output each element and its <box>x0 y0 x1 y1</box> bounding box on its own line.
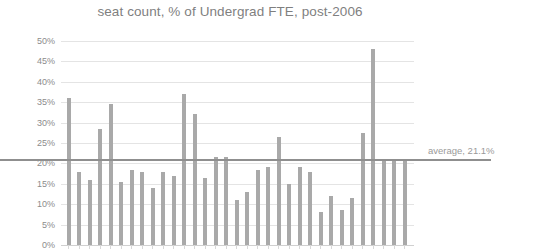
bar <box>109 104 113 245</box>
bar <box>350 198 354 245</box>
bar <box>161 172 165 245</box>
bar <box>266 167 270 245</box>
x-axis-tick <box>352 245 353 249</box>
x-axis-tick <box>215 245 216 249</box>
y-axis-tick-label: 25% <box>37 139 55 148</box>
plot-area <box>61 41 414 245</box>
x-axis-tick <box>121 245 122 249</box>
x-axis-tick <box>194 245 195 249</box>
bar <box>319 212 323 245</box>
bar <box>88 180 92 245</box>
x-axis-tick <box>79 245 80 249</box>
x-axis-tick <box>226 245 227 249</box>
bar <box>392 159 396 245</box>
y-axis-labels: 50%45%40%35%30%25%20%15%10%5%0% <box>0 41 55 245</box>
x-axis-tick <box>247 245 248 249</box>
y-axis-tick-label: 35% <box>37 98 55 107</box>
bar <box>371 49 375 245</box>
bar <box>172 176 176 245</box>
average-line <box>0 159 491 161</box>
x-axis-tick <box>184 245 185 249</box>
x-axis-tick <box>163 245 164 249</box>
bar <box>403 161 407 245</box>
bar <box>98 129 102 245</box>
bar <box>119 182 123 245</box>
x-axis-tick <box>257 245 258 249</box>
y-axis-tick-label: 0% <box>42 241 55 250</box>
bar <box>214 157 218 245</box>
bar <box>298 167 302 245</box>
bar <box>151 188 155 245</box>
bar <box>361 133 365 245</box>
average-line-label: average, 21.1% <box>428 145 495 159</box>
y-axis-tick-label: 40% <box>37 77 55 86</box>
bar <box>67 98 71 245</box>
x-axis-tick <box>383 245 384 249</box>
y-axis-tick-label: 5% <box>42 220 55 229</box>
bar <box>140 172 144 245</box>
x-axis-tick <box>142 245 143 249</box>
y-axis-tick-label: 10% <box>37 200 55 209</box>
bar <box>235 200 239 245</box>
x-axis-tick <box>278 245 279 249</box>
x-axis-tick <box>131 245 132 249</box>
gridline-0 <box>61 245 414 246</box>
x-axis-tick <box>100 245 101 249</box>
bar <box>182 94 186 245</box>
x-axis-tick <box>320 245 321 249</box>
x-axis-tick <box>394 245 395 249</box>
x-axis-tick <box>331 245 332 249</box>
x-axis-tick <box>310 245 311 249</box>
bar <box>287 184 291 245</box>
bar <box>340 210 344 245</box>
x-axis-tick <box>362 245 363 249</box>
x-axis-tick <box>299 245 300 249</box>
bar <box>224 157 228 245</box>
bar <box>308 172 312 245</box>
x-axis-tick <box>341 245 342 249</box>
x-axis-tick <box>289 245 290 249</box>
y-axis-tick-label: 30% <box>37 118 55 127</box>
bar <box>245 192 249 245</box>
x-axis-tick <box>236 245 237 249</box>
chart-title: seat count, % of Undergrad FTE, post-200… <box>0 4 460 19</box>
bar <box>382 159 386 245</box>
x-axis-tick <box>173 245 174 249</box>
bar <box>193 114 197 245</box>
bar <box>77 172 81 245</box>
chart-container: seat count, % of Undergrad FTE, post-200… <box>0 0 550 252</box>
bar <box>277 137 281 245</box>
y-axis-tick-label: 45% <box>37 57 55 66</box>
y-axis-tick-label: 50% <box>37 37 55 46</box>
x-axis-tick <box>89 245 90 249</box>
bar <box>203 178 207 245</box>
x-axis-tick <box>68 245 69 249</box>
x-axis-tick <box>152 245 153 249</box>
bar <box>329 196 333 245</box>
y-axis-tick-label: 15% <box>37 179 55 188</box>
x-axis-tick <box>373 245 374 249</box>
x-axis-tick <box>404 245 405 249</box>
x-axis-tick <box>268 245 269 249</box>
bar-series <box>61 41 414 245</box>
x-axis-tick <box>110 245 111 249</box>
bar <box>130 170 134 245</box>
bar <box>256 170 260 245</box>
x-axis-tick <box>205 245 206 249</box>
